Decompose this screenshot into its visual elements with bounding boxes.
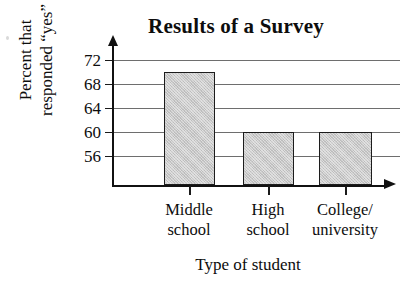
- x-axis-arrow-icon: [384, 179, 396, 189]
- x-category-label-line-2: university: [312, 220, 378, 240]
- y-axis-label-line-2: responded “yes”: [37, 4, 58, 116]
- bar-college-university: [319, 132, 372, 185]
- x-tick-mark-high-school: [268, 186, 270, 195]
- bar-middle-school: [164, 72, 215, 185]
- x-category-label-line-1: Middle: [165, 200, 213, 220]
- plot-area: 72 68 64 60 56: [112, 60, 400, 185]
- x-tick-mark-middle-school: [189, 186, 191, 195]
- y-axis-arrow-icon: [108, 35, 118, 46]
- y-axis-line: [112, 44, 114, 185]
- gridline-64: [112, 108, 400, 109]
- x-category-label-high-school: High school: [246, 200, 289, 241]
- x-category-label-middle-school: Middle school: [165, 200, 213, 241]
- x-category-label-line-2: school: [165, 220, 213, 240]
- survey-bar-chart-figure: Results of a Survey Percent that respond…: [0, 0, 412, 287]
- gridline-68: [112, 84, 400, 85]
- x-axis-label: Type of student: [112, 255, 384, 275]
- x-category-label-line-1: High: [246, 200, 289, 220]
- x-category-label-line-1: College/: [312, 200, 378, 220]
- y-axis-label: Percent that responded “yes”: [9, 0, 65, 145]
- x-axis-line: [112, 185, 384, 187]
- x-category-label-line-2: school: [246, 220, 289, 240]
- gridline-72: [112, 60, 400, 61]
- y-tick-label-68: 68: [84, 76, 101, 93]
- y-axis-label-line-1: Percent that: [16, 4, 37, 116]
- x-tick-mark-college-university: [345, 186, 347, 195]
- bar-high-school: [243, 132, 294, 185]
- y-tick-label-56: 56: [84, 148, 101, 165]
- y-tick-label-60: 60: [84, 124, 101, 141]
- x-category-label-college-university: College/ university: [312, 200, 378, 241]
- y-tick-label-72: 72: [84, 52, 101, 69]
- y-tick-label-64: 64: [84, 100, 101, 117]
